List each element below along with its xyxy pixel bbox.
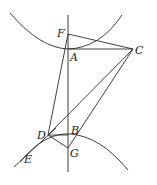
segment-dc [48,49,133,135]
segment-fd [48,34,68,135]
label-g: G [70,147,79,160]
label-d: D [36,129,46,142]
segment-fc [68,34,133,49]
label-c: C [135,44,144,57]
label-b: B [70,124,79,137]
label-e: E [23,153,32,166]
label-f: F [56,27,65,40]
geometry-diagram: F A C D B G E [0,0,157,185]
segment-dg [48,135,68,148]
label-a: A [69,51,78,64]
